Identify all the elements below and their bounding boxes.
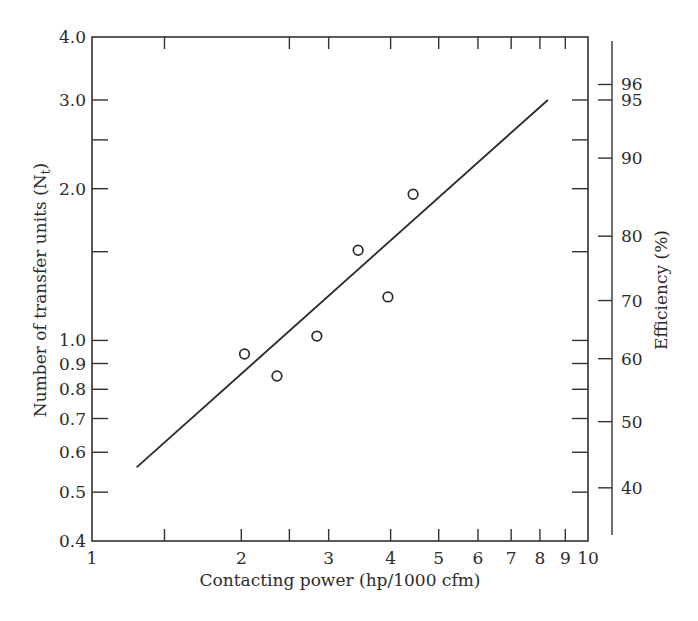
plot-border [92,37,588,541]
efficiency-tick-label: 40 [621,478,643,498]
x-tick-label: 3 [323,548,334,568]
efficiency-tick-label: 90 [621,148,643,168]
y-tick-label: 1.0 [59,330,86,350]
x-tick-label: 2 [236,548,247,568]
x-tick-label: 6 [473,548,484,568]
data-point-marker [408,189,418,199]
efficiency-tick-label: 80 [621,226,643,246]
y-axis-ticks: 4.03.02.01.00.90.80.70.60.50.4 [59,27,588,551]
x-tick-label: 7 [506,548,517,568]
y-tick-label: 4.0 [59,27,86,47]
y-tick-label: 0.6 [59,442,86,462]
data-point-marker [240,349,250,359]
efficiency-axis: 9695908070605040 [598,41,643,535]
efficiency-tick-label: 95 [621,90,643,110]
x-tick-label: 4 [385,548,396,568]
y-tick-label: 3.0 [59,90,86,110]
y-tick-label: 0.7 [59,409,86,429]
y-axis-label: Number of transfer units (Nt) [30,163,53,417]
x-tick-label: 5 [433,548,444,568]
data-point-marker [353,245,363,255]
data-point-marker [272,371,282,381]
x-tick-label: 10 [577,548,599,568]
efficiency-tick-label: 50 [621,412,643,432]
y-tick-label: 0.5 [59,482,86,502]
x-axis-ticks: 12345678910 [87,37,599,568]
data-series [137,100,548,467]
efficiency-axis-label: Efficiency (%) [651,230,671,350]
x-axis-label: Contacting power (hp/1000 cfm) [200,570,481,590]
x-tick-label: 1 [87,548,98,568]
data-point-marker [383,292,393,302]
chart-canvas: 12345678910 4.03.02.01.00.90.80.70.60.50… [0,0,698,621]
x-tick-label: 9 [560,548,571,568]
y-tick-label: 0.9 [59,354,86,374]
efficiency-tick-label: 70 [621,291,643,311]
fit-line [137,100,548,467]
plot-frame [92,37,588,541]
y-tick-label: 0.4 [59,531,86,551]
x-tick-label: 8 [535,548,546,568]
data-point-marker [312,331,322,341]
y-tick-label: 0.8 [59,379,86,399]
efficiency-tick-label: 60 [621,349,643,369]
y-tick-label: 2.0 [59,179,86,199]
